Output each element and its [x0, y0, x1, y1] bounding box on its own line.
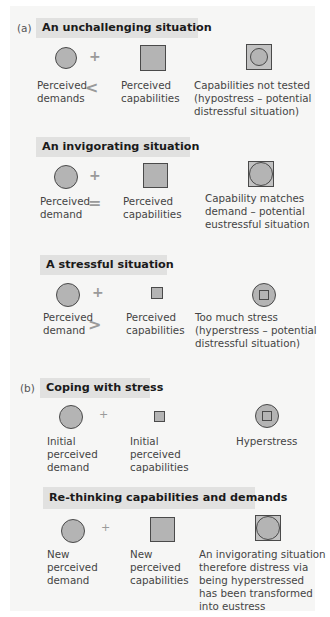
section-title-invigorating: An invigorating situation: [36, 137, 190, 157]
capability-label: Perceived capabilities: [126, 311, 185, 337]
circle-in-square-icon: [246, 44, 272, 70]
demand-label: Perceived demand: [43, 311, 93, 337]
section-title-stressful: A stressful situation: [40, 255, 167, 275]
part-a-tag: (a): [17, 18, 32, 38]
plus-icon: +: [92, 284, 104, 300]
capability-square-icon: [143, 163, 168, 188]
equals-operator: =: [88, 193, 101, 212]
circle-fits-square-icon: [255, 515, 281, 541]
plus-icon: +: [101, 521, 110, 534]
demand-label: Initial perceived demand: [47, 435, 98, 474]
part-b-tag: (b): [20, 378, 35, 398]
demand-label: Perceived demand: [40, 195, 90, 221]
result-label: Too much stress (hyperstress – potential…: [195, 311, 317, 350]
section-title-coping: Coping with stress: [40, 378, 150, 398]
demand-circle-icon: [54, 165, 78, 189]
demand-circle-icon: [56, 283, 80, 307]
plus-icon: +: [99, 408, 108, 421]
result-label: Hyperstress: [236, 435, 297, 448]
capability-label: Perceived capabilities: [123, 195, 182, 221]
result-label: An invigorating situation therefore dist…: [199, 548, 326, 613]
demand-circle-icon: [61, 519, 85, 543]
demand-circle-icon: [55, 47, 77, 69]
square-in-circle-icon: [252, 283, 276, 307]
capability-square-icon: [150, 517, 175, 542]
capability-label: Initial perceived capabilities: [130, 435, 189, 474]
result-label: Capability matches demand – potential eu…: [205, 192, 309, 231]
demand-circle-icon: [59, 405, 83, 429]
section-title-rethinking: Re-thinking capabilities and demands: [43, 487, 255, 509]
capability-square-small-icon: [151, 287, 163, 299]
greater-than-operator: >: [88, 315, 101, 334]
capability-label: Perceived capabilities: [121, 79, 180, 105]
capability-label: New perceived capabilities: [130, 548, 189, 587]
plus-icon: +: [89, 48, 101, 64]
plus-icon: +: [89, 167, 101, 183]
capability-square-icon: [140, 45, 166, 71]
demand-label: Perceived demands: [37, 79, 87, 105]
result-label: Capabilities not tested (hypostress – po…: [194, 79, 311, 118]
square-in-circle-icon: [255, 404, 279, 428]
section-title-unchallenging: An unchallenging situation: [36, 18, 198, 38]
capability-square-small-icon: [154, 411, 165, 422]
circle-fits-square-icon: [248, 161, 274, 187]
demand-label: New perceived demand: [47, 548, 98, 587]
less-than-operator: <: [85, 78, 98, 97]
